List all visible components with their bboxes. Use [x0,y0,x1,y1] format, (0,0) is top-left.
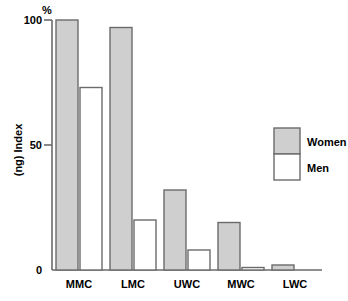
legend-label-women: Women [307,136,347,148]
y-axis-unit-label: % [42,4,52,16]
x-tick-label-lwc: LWC [283,278,307,290]
bar-lmc-men [134,220,156,270]
bar-lwc-women [272,265,294,270]
x-tick-label-uwc: UWC [174,278,200,290]
bar-mmc-men [80,88,102,271]
chart-svg: % 100 50 0 (ng) Index MMCLMCUWCMWCLWC Wo… [0,0,348,301]
bars-layer [56,20,294,270]
y-tick-label-50: 50 [30,139,42,151]
legend-swatch-women [274,128,300,154]
bar-lmc-women [110,28,132,271]
bar-chart-figure: % 100 50 0 (ng) Index MMCLMCUWCMWCLWC Wo… [0,0,348,301]
y-tick-label-0: 0 [36,264,42,276]
bar-mmc-women [56,20,78,270]
x-tick-label-mmc: MMC [66,278,92,290]
legend-swatch-men [274,154,300,180]
bar-mwc-women [218,223,240,271]
bar-mwc-men [242,268,264,271]
y-tick-label-100: 100 [24,14,42,26]
y-axis-title: (ng) Index [12,123,24,176]
x-tick-label-mwc: MWC [227,278,255,290]
x-axis-labels: MMCLMCUWCMWCLWC [66,278,307,290]
bar-uwc-women [164,190,186,270]
x-tick-label-lmc: LMC [121,278,145,290]
legend: Women Men [274,128,347,180]
bar-uwc-men [188,250,210,270]
legend-label-men: Men [307,162,329,174]
